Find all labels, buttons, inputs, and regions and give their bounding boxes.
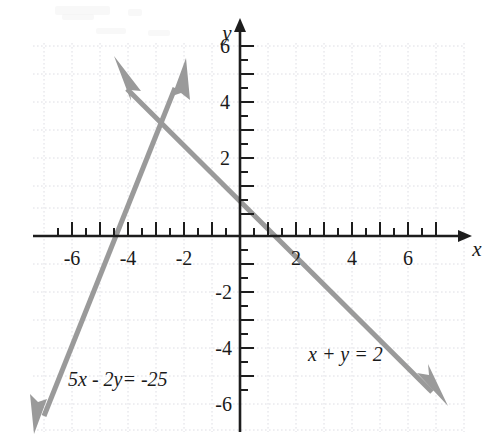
x-tick-label-neg2: -2 [176, 247, 193, 269]
cartesian-plot: -6 -4 -2 2 4 6 6 4 2 -2 -4 -6 y x 5x - 2… [0, 0, 496, 444]
x-axis-arrow [458, 230, 472, 242]
x-tick-label-neg4: -4 [120, 247, 137, 269]
x-tick-label-6: 6 [403, 247, 413, 269]
equation-label-line2: x + y = 2 [307, 343, 383, 366]
y-tick-label-4: 4 [220, 91, 230, 113]
y-tick-label-neg2: -2 [215, 281, 232, 303]
y-axis-ticks [240, 46, 254, 390]
x-tick-label-neg6: -6 [64, 247, 81, 269]
x-axis-ticks [58, 222, 436, 236]
y-tick-label-neg6: -6 [215, 393, 232, 415]
x-tick-label-2: 2 [291, 247, 301, 269]
y-axis-label: y [220, 21, 232, 45]
x-tick-label-4: 4 [347, 247, 357, 269]
y-tick-label-2: 2 [220, 147, 230, 169]
y-tick-label-neg4: -4 [215, 337, 232, 359]
y-axis-arrow [234, 18, 246, 32]
x-axis-label: x [471, 237, 482, 261]
equation-label-line1: 5x - 2y= -25 [68, 368, 168, 391]
graph-canvas: -6 -4 -2 2 4 6 6 4 2 -2 -4 -6 y x 5x - 2… [0, 0, 496, 444]
